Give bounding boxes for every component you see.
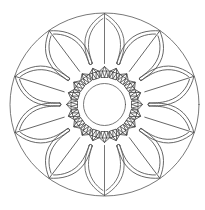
petal-vein-line — [145, 117, 194, 132]
petal-vein-line — [15, 117, 64, 132]
petal — [33, 20, 96, 84]
gem-shape — [116, 123, 131, 138]
petal-outline — [139, 58, 194, 92]
gem-shape — [132, 100, 143, 110]
petal-outline — [9, 99, 64, 133]
gem-shape — [67, 100, 78, 110]
petal-vein-line — [129, 31, 159, 71]
gem-shape — [129, 108, 143, 121]
gem-shape — [67, 108, 81, 121]
inner-circle — [84, 84, 126, 126]
gem-shape — [71, 78, 86, 93]
petal-outline — [90, 63, 93, 66]
petal-outline — [21, 63, 70, 90]
gem-shape — [88, 129, 101, 143]
petal-outline — [145, 76, 200, 110]
gem-shape — [108, 129, 121, 143]
gem-facet — [129, 108, 143, 121]
gem-shape — [88, 67, 101, 81]
petal-vein-line — [145, 76, 194, 91]
gem-facet — [88, 129, 101, 143]
petal — [85, 144, 124, 195]
petal-outline — [116, 63, 119, 66]
petal-outline — [68, 128, 70, 131]
gem-shape — [129, 88, 143, 101]
petal-outline — [105, 14, 125, 64]
petal-outline — [85, 146, 105, 196]
petal-outline — [15, 58, 70, 92]
mandala-drawing — [0, 0, 205, 210]
petal-vein-line — [15, 76, 64, 91]
petal — [113, 20, 176, 84]
petal-outline — [148, 103, 150, 106]
gem-shape — [123, 116, 138, 131]
gem-shape — [67, 88, 81, 101]
gem-facet — [100, 67, 110, 78]
petal-vein-line — [49, 138, 79, 178]
gem-facet — [108, 129, 121, 143]
gem-facet — [67, 100, 78, 110]
petal-outline — [21, 119, 70, 146]
gem-shape — [108, 67, 121, 81]
petal-outline — [140, 119, 189, 146]
gem-shape — [100, 67, 110, 78]
petal-outline — [105, 146, 125, 196]
petal-outline — [9, 76, 64, 110]
petal-outline — [59, 103, 61, 106]
petal-outline — [140, 63, 189, 90]
petal-outline — [139, 117, 194, 151]
mandala-canvas: Mandala coloring page — [0, 0, 205, 210]
gem-facet — [88, 67, 101, 81]
petal-outline — [145, 99, 200, 133]
gem-shape — [78, 71, 93, 86]
petal-outline — [90, 144, 93, 147]
gem-shape — [123, 78, 138, 93]
gem-facet — [132, 100, 143, 110]
gem-shape — [116, 71, 131, 86]
petal — [85, 14, 124, 65]
petal-outline — [15, 117, 70, 151]
gem-shape — [78, 123, 93, 138]
petal-ring — [9, 14, 200, 196]
petal-outline — [67, 78, 70, 81]
petal-vein-line — [129, 138, 159, 178]
gem-ring — [67, 67, 143, 143]
petal-outline — [117, 144, 120, 145]
petal — [33, 126, 96, 190]
petal-vein-line — [49, 31, 79, 71]
gem-facet — [67, 108, 81, 121]
petal-outline — [139, 78, 141, 81]
gem-facet — [67, 88, 81, 101]
petal-outline — [139, 128, 142, 131]
gem-shape — [100, 132, 110, 143]
gem-shape — [71, 116, 86, 131]
petal — [113, 126, 176, 190]
gem-facet — [100, 132, 110, 143]
gem-facet — [108, 67, 121, 81]
petal-outline — [85, 14, 105, 64]
gem-facet — [129, 88, 143, 101]
